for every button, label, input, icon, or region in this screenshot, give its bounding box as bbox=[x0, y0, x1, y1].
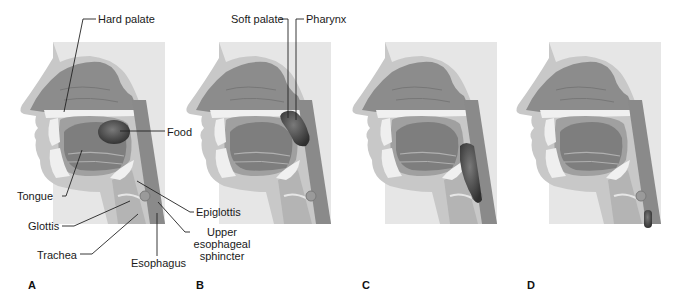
label-pharynx: Pharynx bbox=[306, 13, 346, 25]
label-tongue: Tongue bbox=[17, 190, 53, 202]
swallowing-diagram bbox=[0, 0, 679, 294]
panel-d-illustration bbox=[516, 42, 661, 228]
food-bolus-d bbox=[644, 210, 652, 228]
panel-c-illustration bbox=[352, 42, 497, 224]
label-line-2: esophageal bbox=[192, 238, 252, 250]
label-hard-palate: Hard palate bbox=[98, 13, 155, 25]
label-food: Food bbox=[167, 126, 192, 138]
food-bolus-a bbox=[98, 120, 130, 144]
panel-b-illustration bbox=[186, 42, 331, 224]
label-upper-esophageal-sphincter: Upper esophageal sphincter bbox=[192, 226, 252, 262]
panel-letter-c: C bbox=[362, 279, 370, 291]
label-esophagus: Esophagus bbox=[131, 257, 186, 269]
label-glottis: Glottis bbox=[28, 220, 59, 232]
label-epiglottis: Epiglottis bbox=[196, 206, 241, 218]
panel-letter-d: D bbox=[527, 279, 535, 291]
label-line-1: Upper bbox=[192, 226, 252, 238]
label-line-3: sphincter bbox=[192, 250, 252, 262]
label-trachea: Trachea bbox=[37, 249, 77, 261]
panel-letter-b: B bbox=[196, 279, 204, 291]
label-soft-palate: Soft palate bbox=[231, 13, 284, 25]
panel-letter-a: A bbox=[28, 279, 36, 291]
